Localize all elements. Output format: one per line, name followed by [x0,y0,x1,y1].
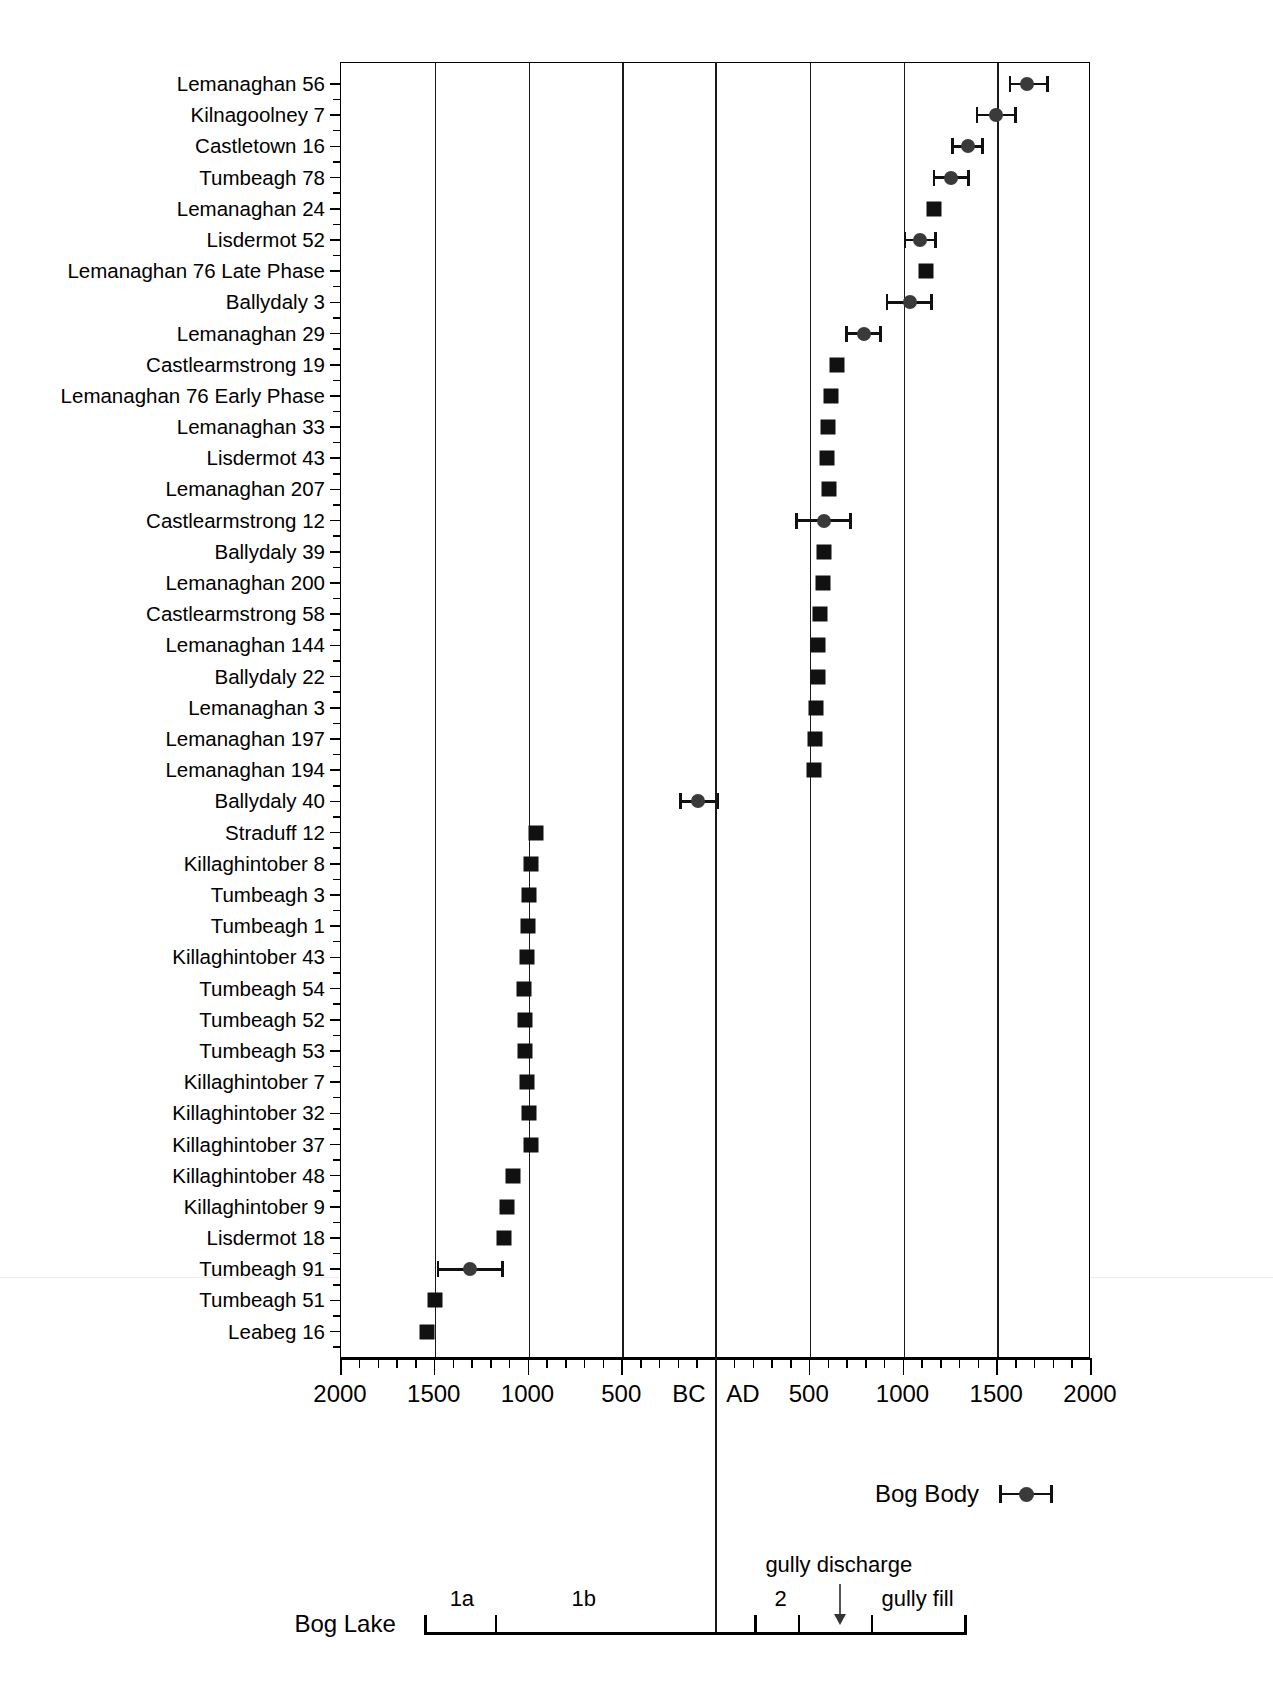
bog-lake-phase-label: 1b [572,1586,596,1612]
sample-marker [806,763,821,778]
y-axis-tick [330,863,341,865]
sample-marker [816,544,831,559]
sample-marker [809,700,824,715]
sample-marker [524,856,539,871]
sample-marker [427,1293,442,1308]
y-axis-label: Ballydaly 39 [214,542,325,563]
y-axis-tick [330,364,341,366]
y-axis-minor-tick [333,1097,341,1099]
x-axis-major-tick [1090,1358,1092,1375]
sample-marker [524,1137,539,1152]
y-axis-minor-tick [333,1003,341,1005]
x-axis-major-tick [903,1358,905,1375]
y-axis-label: Killaghintober 43 [172,947,325,968]
y-axis-label: Tumbeagh 91 [199,1259,325,1280]
x-axis-minor-tick [359,1358,361,1368]
x-axis-major-tick [528,1358,530,1375]
y-axis-minor-tick [333,348,341,350]
x-axis-tick-label: 1000 [501,1380,554,1408]
y-axis-label: Tumbeagh 78 [199,167,325,188]
x-axis-major-tick [809,1358,811,1375]
x-axis-minor-tick [659,1358,661,1368]
y-axis-minor-tick [333,1066,341,1068]
y-axis-tick [330,395,341,397]
y-axis-minor-tick [333,255,341,257]
y-axis-minor-tick [333,192,341,194]
bog-lake-tick [798,1615,801,1635]
x-axis-minor-tick [753,1358,755,1368]
x-axis-minor-tick [453,1358,455,1368]
x-axis-minor-tick [1034,1358,1036,1368]
y-axis-tick [330,333,341,335]
y-axis-minor-tick [333,1035,341,1037]
x-axis-tick-label: 1500 [970,1380,1023,1408]
y-axis-minor-tick [333,99,341,101]
y-axis-label: Castlearmstrong 12 [146,510,325,531]
y-axis-tick [330,988,341,990]
gridline--1500 [435,63,436,1357]
y-axis-tick [330,302,341,304]
y-axis-minor-tick [333,723,341,725]
sample-marker [420,1324,435,1339]
y-axis-label: Ballydaly 40 [214,791,325,812]
x-axis-minor-tick [790,1358,792,1368]
gully-fill-label: gully fill [881,1586,953,1612]
y-axis-minor-tick [333,941,341,943]
sample-marker [517,1043,532,1058]
y-axis-label: Tumbeagh 51 [199,1290,325,1311]
y-axis-tick [330,270,341,272]
y-axis-tick [330,1144,341,1146]
y-axis-tick [330,1206,341,1208]
gully-discharge-label: gully discharge [765,1552,912,1578]
y-axis-minor-tick [333,972,341,974]
sample-marker [497,1231,512,1246]
x-axis-minor-tick [509,1358,511,1368]
y-axis-minor-tick [333,816,341,818]
sample-marker [520,919,535,934]
sample-marker [829,357,844,372]
y-axis-label: Lemanaghan 24 [177,199,325,220]
y-axis-label: Leabeg 16 [228,1321,325,1342]
y-axis-tick [330,957,341,959]
x-axis-minor-tick [565,1358,567,1368]
x-axis-minor-tick [396,1358,398,1368]
x-axis-minor-tick [640,1358,642,1368]
y-axis-minor-tick [333,1128,341,1130]
y-axis-minor-tick [333,380,341,382]
x-axis-minor-tick [734,1358,736,1368]
y-axis-label: Tumbeagh 52 [199,1009,325,1030]
x-axis-minor-tick [1053,1358,1055,1368]
y-axis-label: Killaghintober 32 [172,1103,325,1124]
y-axis-minor-tick [333,473,341,475]
y-axis-tick [330,239,341,241]
sample-marker [821,482,836,497]
sample-marker [517,1012,532,1027]
y-axis-tick [330,582,341,584]
y-axis-tick [330,645,341,647]
sample-marker [521,887,536,902]
x-axis-minor-tick [1071,1358,1073,1368]
y-axis-tick [330,1331,341,1333]
x-axis-minor-tick [1015,1358,1017,1368]
y-axis-tick [330,925,341,927]
y-axis-minor-tick [333,1222,341,1224]
y-axis-minor-tick [333,535,341,537]
gridline-1000 [904,63,905,1357]
x-axis-minor-tick [921,1358,923,1368]
x-axis-minor-tick [678,1358,680,1368]
y-axis-minor-tick [333,598,341,600]
sample-marker [819,451,834,466]
y-axis-label: Lisdermot 18 [206,1228,325,1249]
y-axis-label: Lemanaghan 3 [188,698,325,719]
y-axis-tick [330,1300,341,1302]
x-axis-minor-tick [378,1358,380,1368]
y-axis-label: Kilnagoolney 7 [191,105,326,126]
y-axis-tick [330,676,341,678]
y-axis-label: Lemanaghan 200 [165,573,325,594]
sample-marker [927,201,942,216]
bog-chronology-chart: Lemanaghan 56Kilnagoolney 7Castletown 16… [0,0,1273,1687]
x-axis-minor-tick [471,1358,473,1368]
y-axis-minor-tick [333,785,341,787]
y-axis-tick [330,426,341,428]
y-axis-minor-tick [333,130,341,132]
